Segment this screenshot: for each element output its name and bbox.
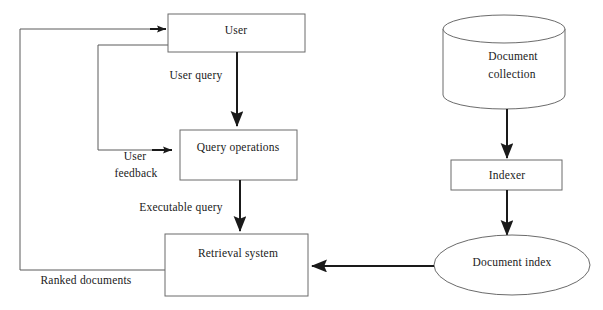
node-document-collection[interactable]: Document collection [443,15,565,109]
edge-label-user-feedback-line2: feedback [114,167,157,179]
diagram-canvas: Ranked documents User feedback User User… [0,0,603,310]
node-label-indexer: Indexer [489,169,526,181]
node-indexer[interactable]: Indexer [451,160,562,190]
node-retrieval-system[interactable]: Retrieval system [165,234,308,296]
node-label-document-collection-line2: collection [488,68,535,80]
node-label-document-index: Document index [472,256,551,268]
edge-label-ranked-documents: Ranked documents [40,274,131,286]
document-collection-top [443,15,565,43]
edge-label-user-feedback-line1: User [124,150,147,162]
edge-query-operations-to-retrieval-system: Executable query [139,180,240,231]
edge-label-executable-query: Executable query [139,201,222,214]
user-feedback-path [98,45,168,150]
query-operations-box[interactable] [180,130,297,180]
node-label-query-operations: Query operations [197,141,280,154]
retrieval-system-box[interactable] [165,234,308,296]
edge-user-to-query-operations: User query [170,52,237,126]
node-label-retrieval-system: Retrieval system [198,247,278,260]
node-label-document-collection-line1: Document [488,50,538,62]
node-user[interactable]: User [168,14,305,52]
flowchart-diagram: Ranked documents User feedback User User… [0,0,603,310]
node-label-user: User [225,24,248,36]
edge-user-feedback: User feedback [98,45,172,179]
node-query-operations[interactable]: Query operations [180,130,297,180]
edge-label-user-query: User query [170,69,223,82]
node-document-index[interactable]: Document index [434,235,590,295]
